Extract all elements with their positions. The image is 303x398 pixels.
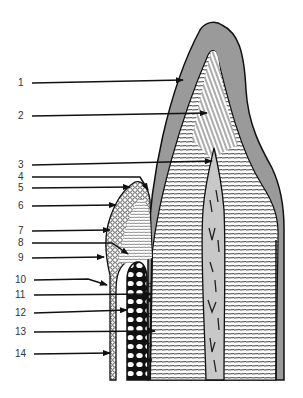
label-number-13: 13 xyxy=(15,326,27,337)
label-number-14: 14 xyxy=(15,348,27,359)
label-6: 6 xyxy=(18,200,116,211)
label-number-3: 3 xyxy=(18,159,24,170)
label-number-10: 10 xyxy=(15,274,27,285)
label-number-8: 8 xyxy=(18,237,24,248)
label-number-9: 9 xyxy=(18,252,24,263)
label-number-12: 12 xyxy=(15,307,27,318)
label-number-7: 7 xyxy=(18,225,24,236)
label-number-5: 5 xyxy=(18,182,24,193)
label-14: 14 xyxy=(15,348,110,359)
label-number-4: 4 xyxy=(18,171,24,182)
label-7: 7 xyxy=(18,225,110,236)
label-number-1: 1 xyxy=(18,77,24,88)
tooth-diagram: 1 2 3 4 5 6 7 8 9 10 11 12 13 14 xyxy=(0,0,303,398)
label-1: 1 xyxy=(18,77,183,88)
label-10: 10 xyxy=(15,274,107,285)
label-number-6: 6 xyxy=(18,200,24,211)
label-9: 9 xyxy=(18,252,104,263)
label-5: 5 xyxy=(18,182,130,193)
alveolar-bone xyxy=(127,262,148,380)
label-number-2: 2 xyxy=(18,110,24,121)
label-number-11: 11 xyxy=(15,289,26,300)
